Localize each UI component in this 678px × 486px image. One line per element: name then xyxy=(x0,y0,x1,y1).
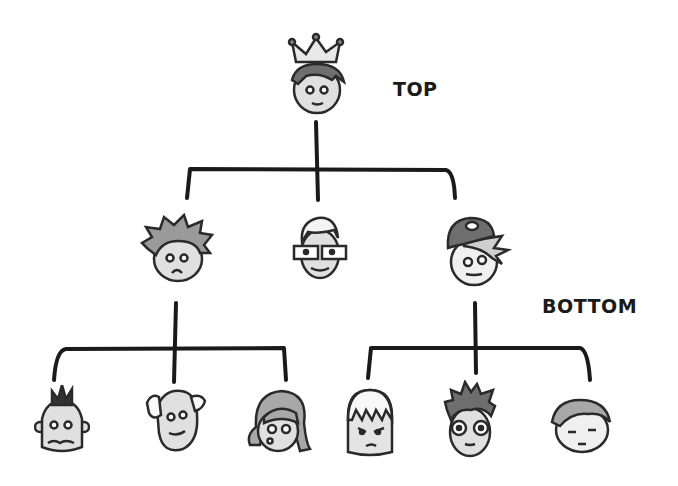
connector-mid3-stem xyxy=(475,303,476,373)
glasses-white-hair-face xyxy=(290,210,350,282)
cap-wearing-face xyxy=(442,214,514,290)
connector-level1-bar xyxy=(187,169,455,198)
grumpy-bangs-face xyxy=(344,388,396,460)
connector-mid1-stem xyxy=(174,303,176,382)
crowned-leader-face xyxy=(284,28,354,123)
bottom-label: BOTTOM xyxy=(542,295,637,317)
top-label: TOP xyxy=(393,78,438,100)
connector-level2-right-bar xyxy=(368,348,590,380)
sleepy-face xyxy=(548,392,612,456)
surprised-girl-face xyxy=(242,387,312,459)
worried-spiky-hair-face xyxy=(140,213,216,285)
round-glasses-face xyxy=(443,380,497,460)
connector-root-stem xyxy=(316,122,318,200)
connector-level2-left-bar xyxy=(54,348,286,380)
balding-old-face xyxy=(143,385,209,457)
mohawk-nervous-face xyxy=(34,385,90,457)
